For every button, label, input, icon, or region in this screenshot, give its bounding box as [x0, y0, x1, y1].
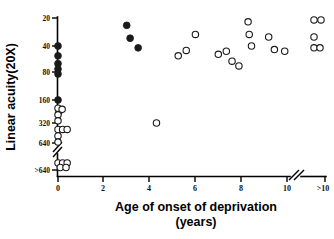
- x-tick-label-4: 8: [239, 184, 243, 193]
- plot-canvas: 20 40 80 160 320 640 >640 0 2 4 6 8 10 >…: [0, 0, 334, 239]
- data-point-filled: [123, 22, 130, 29]
- y-tick-label-1: 40: [43, 42, 51, 51]
- data-point-filled: [55, 52, 62, 59]
- data-point-open: [282, 48, 288, 54]
- x-axis-title-line1: Age of onset of deprivation: [115, 200, 277, 214]
- x-axis-break-slash-2: [294, 170, 304, 180]
- data-point-open: [63, 164, 69, 170]
- y-tick-label-4: 320: [39, 119, 51, 128]
- scatter-plot-figure: 20 40 80 160 320 640 >640 0 2 4 6 8 10 >…: [0, 0, 334, 239]
- data-point-open: [265, 34, 271, 40]
- x-tick-label-0: 0: [56, 184, 60, 193]
- data-point-open: [55, 118, 61, 124]
- x-tick-label-6: >10: [317, 184, 330, 193]
- data-point-open: [215, 51, 221, 57]
- x-tick-marks: [58, 177, 325, 183]
- x-tick-label-3: 6: [193, 184, 197, 193]
- data-point-open: [311, 45, 317, 51]
- x-tick-label-2: 4: [147, 184, 151, 193]
- data-points-layer: [55, 17, 325, 171]
- data-point-open: [317, 45, 323, 51]
- data-point-open: [55, 133, 61, 139]
- y-tick-label-5: 640: [39, 139, 51, 148]
- y-tick-label-0: 20: [43, 14, 51, 23]
- data-point-open: [55, 112, 61, 118]
- data-point-open: [229, 58, 235, 64]
- x-tick-label-5: 10: [283, 184, 291, 193]
- data-point-open: [55, 139, 61, 145]
- data-point-open: [192, 31, 198, 37]
- x-tick-label-1: 2: [101, 184, 105, 193]
- data-point-filled: [55, 97, 62, 104]
- y-tick-label-2: 80: [43, 68, 51, 77]
- data-point-open: [311, 34, 317, 40]
- x-axis-title-line2: (years): [176, 215, 217, 229]
- y-tick-label-6: >640: [34, 166, 50, 175]
- data-point-open: [245, 19, 251, 25]
- data-point-open: [246, 31, 252, 37]
- data-point-open: [223, 48, 229, 54]
- y-axis-title: Linear acuity(20X): [4, 43, 18, 151]
- data-point-filled: [127, 35, 134, 42]
- data-point-open: [175, 53, 181, 59]
- data-point-open: [183, 47, 189, 53]
- data-point-open: [248, 43, 254, 49]
- data-point-open: [64, 126, 70, 132]
- data-point-open: [271, 46, 277, 52]
- data-point-filled: [55, 43, 62, 50]
- data-point-open: [318, 17, 324, 23]
- data-point-filled: [55, 71, 62, 78]
- data-point-open: [153, 120, 159, 126]
- data-point-open: [311, 17, 317, 23]
- y-tick-label-3: 160: [39, 96, 51, 105]
- data-point-open: [236, 63, 242, 69]
- x-axis-break-slash-1: [289, 170, 299, 180]
- data-point-filled: [135, 44, 142, 51]
